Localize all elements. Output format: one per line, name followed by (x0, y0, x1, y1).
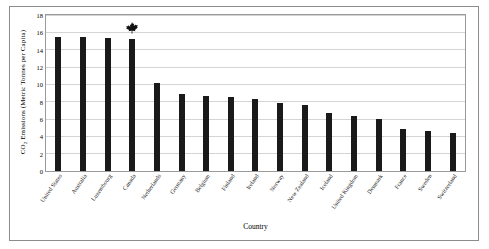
bar-group: United Kingdom (342, 15, 367, 171)
y-axis-tick-label: 2 (40, 150, 43, 157)
chart-figure: CO2 Emissions (Metric Tonnes per Capita)… (0, 0, 489, 249)
bar[interactable] (302, 105, 308, 171)
bar-group: Norway (268, 15, 293, 171)
bar-group: Netherlands (145, 15, 170, 171)
bar[interactable] (351, 116, 357, 171)
bar-group: Canada (120, 15, 145, 171)
y-axis-tick-label: 8 (40, 98, 43, 105)
y-axis-tick-label: 16 (37, 29, 44, 36)
bar-group: Belgium (194, 15, 219, 171)
bar[interactable] (228, 97, 234, 171)
bar-group: Ireland (243, 15, 268, 171)
bar[interactable] (203, 96, 209, 171)
bar-group: Luxembourg (95, 15, 120, 171)
bar-group: Finland (219, 15, 244, 171)
bar-group: New Zealand (292, 15, 317, 171)
plot-area: 024681012141618 United StatesAustraliaLu… (45, 14, 466, 172)
bars-layer: United StatesAustraliaLuxembourgCanadaNe… (46, 15, 465, 171)
bar[interactable] (105, 38, 111, 171)
y-axis-tick-label: 0 (40, 168, 43, 175)
bar-group: Australia (71, 15, 96, 171)
bar-group: Denmark (366, 15, 391, 171)
bar-group: Iceland (317, 15, 342, 171)
bar[interactable] (376, 119, 382, 171)
y-axis-title: CO2 Emissions (Metric Tonnes per Capita) (19, 7, 27, 177)
bar-group: Switzerland (440, 15, 465, 171)
x-axis-title: Country (45, 222, 466, 231)
bar[interactable] (326, 113, 332, 171)
bar[interactable] (252, 99, 258, 171)
y-axis-tick-label: 18 (37, 12, 44, 19)
bar[interactable] (400, 129, 406, 171)
y-axis-title-subscript: 2 (23, 142, 28, 145)
bar-group: United States (46, 15, 71, 171)
y-axis-tick-label: 14 (37, 46, 44, 53)
bar[interactable] (450, 133, 456, 171)
y-axis-tick-label: 6 (40, 116, 43, 123)
y-axis-tick-label: 12 (37, 64, 44, 71)
bar[interactable] (80, 37, 86, 171)
y-axis-title-suffix: Emissions (Metric Tonnes per Capita) (19, 30, 27, 142)
bar[interactable] (277, 103, 283, 171)
bar[interactable] (129, 39, 135, 171)
bar-group: France (391, 15, 416, 171)
y-axis-tick-label: 10 (37, 81, 44, 88)
y-axis-title-prefix: CO (19, 144, 27, 154)
y-axis-tick-label: 4 (40, 133, 43, 140)
bar[interactable] (425, 131, 431, 171)
bar[interactable] (154, 83, 160, 171)
bar-group: Germany (169, 15, 194, 171)
bar[interactable] (179, 94, 185, 171)
maple-leaf-icon (125, 21, 139, 35)
bar[interactable] (55, 37, 61, 171)
bar-group: Sweden (416, 15, 441, 171)
